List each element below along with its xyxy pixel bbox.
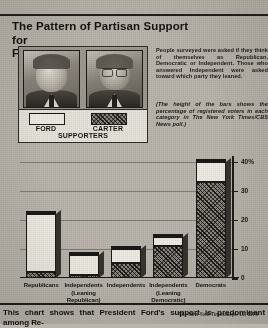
legend-sublabel: SUPPORTERS (19, 132, 147, 139)
legend-swatch-ford (29, 113, 65, 125)
bar-2 (69, 255, 99, 278)
bar-top-face (69, 252, 99, 256)
tie-shape (49, 95, 54, 107)
bar-segment-ford (153, 237, 183, 246)
bar-segment-carter (26, 272, 56, 278)
carter-photo (86, 50, 143, 108)
bar-top-face (153, 234, 183, 238)
y-tick-label: 0 (241, 274, 245, 281)
y-tick (232, 162, 238, 164)
legend-label-ford: FORD (23, 125, 69, 132)
plot-area (20, 156, 232, 278)
explainer-text-italic: (The height of the bars shows the percen… (156, 101, 268, 127)
y-tick (232, 249, 238, 251)
bar-top-face (196, 159, 226, 163)
bar-segment-carter (69, 275, 99, 278)
y-tick (232, 191, 238, 193)
x-axis-label-line: Independents (64, 282, 102, 288)
explainer-text: People surveyed were asked if they think… (156, 47, 268, 80)
bar-segment-ford (196, 162, 226, 182)
legend-swatch-carter (91, 113, 127, 125)
bar-top-face (111, 246, 141, 250)
x-axis-label-line: (Leaning (156, 290, 181, 296)
x-axis-label-line: Independents (149, 282, 187, 288)
y-tick-label: 10 (241, 245, 248, 252)
bar-4 (153, 237, 183, 278)
y-axis (232, 156, 234, 278)
x-axis-label-line: Republicans (24, 282, 59, 288)
bar-segment-carter (153, 246, 183, 278)
bar-side-face (141, 245, 146, 278)
bar-side-face (183, 233, 188, 278)
title-line-1: The Pattern of Partisan Support for (12, 20, 188, 46)
y-tick (232, 278, 238, 280)
x-axis-label-line: Democrats (196, 282, 227, 288)
bar-segment-ford (111, 249, 141, 264)
x-axis-label-line: Independents (107, 282, 145, 288)
glasses-shape (102, 68, 127, 76)
bar-chart: 010203040%RepublicansIndependents(Leanin… (10, 156, 265, 281)
bar-side-face (99, 251, 104, 278)
bar-side-face (56, 210, 61, 278)
tie-shape (112, 95, 117, 107)
y-tick (232, 220, 238, 222)
bar-segment-carter (111, 263, 141, 278)
figure-caption: This chart shows that President Ford's s… (3, 308, 265, 328)
x-axis-label-line: (Leaning (71, 290, 96, 296)
legend-label-carter: CARTER (85, 125, 131, 132)
bar-segment-ford (69, 255, 99, 275)
photo-box (18, 46, 148, 110)
bar-1 (26, 214, 56, 278)
chart-panel: The Pattern of Partisan Support for Ford… (4, 16, 264, 303)
bar-3 (111, 249, 141, 278)
hair-shape (33, 54, 70, 69)
bottom-rule (0, 303, 268, 305)
y-tick-label: 20 (241, 216, 248, 223)
bar-segment-ford (26, 214, 56, 272)
bar-5 (196, 162, 226, 278)
y-tick-label: 30 (241, 187, 248, 194)
bar-segment-carter (196, 182, 226, 278)
chart-legend: FORD CARTER SUPPORTERS (18, 109, 148, 143)
ford-photo (23, 50, 80, 108)
bar-top-face (26, 211, 56, 215)
x-axis-label-5: Democrats (184, 282, 238, 290)
y-tick-label: 40% (241, 158, 254, 165)
hair-shape (96, 54, 133, 69)
bar-side-face (226, 158, 231, 278)
